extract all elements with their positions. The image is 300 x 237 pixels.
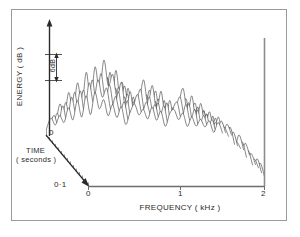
- frequency-tick-label-1: 1: [178, 189, 183, 198]
- frequency-axis-label: FREQUENCY ( kHz ): [100, 203, 260, 212]
- six-db-scale-label: 6dB: [49, 55, 56, 77]
- waterfall-plot-canvas: [0, 0, 300, 237]
- energy-zero-tick-label: 0: [49, 128, 54, 137]
- frequency-tick-label-0: 0: [86, 189, 91, 198]
- energy-axis-label: ENERGY ( dB ): [15, 39, 24, 115]
- time-axis-label-line2: ( seconds ): [16, 155, 56, 164]
- time-end-tick-label: 0·1: [54, 180, 66, 189]
- spectral-traces-group: [47, 60, 265, 186]
- time-axis-label-line1: TIME: [26, 146, 45, 155]
- frequency-tick-label-2: 2: [261, 189, 266, 198]
- energy-axis-arrow: [47, 19, 53, 27]
- six-db-arrow-down: [54, 77, 58, 83]
- waterfall-spectrum-figure: ENERGY ( dB ) 6dB 0 TIME ( seconds ) 0·1…: [0, 0, 300, 237]
